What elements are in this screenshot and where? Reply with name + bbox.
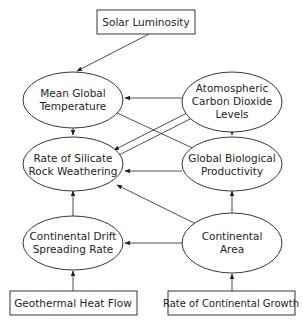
node-label-line2: Carbon Dioxide (192, 95, 273, 107)
node-label: Rate of Continental Growth (163, 298, 299, 309)
node-label-line1: Atomospheric (196, 82, 269, 94)
node-mean-global-temperature: Mean Global Temperature (23, 72, 123, 128)
node-label-line1: Continental (202, 230, 263, 242)
node-label-line2: Productivity (201, 165, 263, 177)
node-silicate-rock-weathering: Rate of Silicate Rock Weathering (23, 137, 123, 191)
edge-solar-to-temperature (77, 34, 149, 71)
node-solar-luminosity: Solar Luminosity (97, 10, 195, 34)
feedback-diagram: Solar Luminosity Mean Global Temperature… (0, 0, 303, 328)
node-label-line3: Levels (215, 108, 248, 120)
node-label-line2: Area (220, 243, 244, 255)
edge-area-to-weathering (117, 185, 196, 224)
node-label: Solar Luminosity (102, 16, 189, 28)
node-label-line2: Rock Weathering (29, 165, 118, 177)
node-label-line2: Spreading Rate (33, 243, 114, 255)
node-atmospheric-co2: Atomospheric Carbon Dioxide Levels (182, 72, 282, 132)
node-label: Geothermal Heat Flow (14, 297, 132, 309)
node-continental-drift: Continental Drift Spreading Rate (23, 216, 123, 270)
node-geothermal-heat-flow: Geothermal Heat Flow (10, 291, 137, 315)
node-global-biological-productivity: Global Biological Productivity (182, 137, 282, 191)
edge-weathering-to-co2 (119, 116, 196, 155)
node-label-line1: Continental Drift (30, 230, 117, 242)
node-rate-of-continental-growth: Rate of Continental Growth (163, 291, 299, 315)
node-label-line1: Mean Global (40, 87, 105, 99)
node-label-line1: Global Biological (188, 152, 275, 164)
node-continental-area: Continental Area (182, 213, 282, 273)
node-label-line2: Temperature (39, 100, 107, 112)
node-label-line1: Rate of Silicate (33, 152, 112, 164)
edge-temperature-to-productivity (117, 113, 199, 151)
